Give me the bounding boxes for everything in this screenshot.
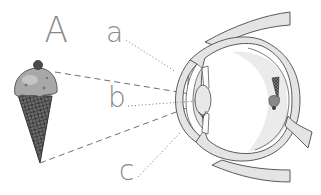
eye-cross-section (176, 12, 312, 182)
label-a: a (106, 19, 123, 47)
cherry-icon (34, 61, 43, 70)
pointer-a (126, 40, 176, 72)
lower-muscle (212, 160, 290, 182)
pointer-c (138, 133, 180, 177)
label-c: c (119, 157, 134, 185)
ice-cream-cone (15, 61, 57, 164)
label-b: b (108, 84, 126, 112)
lens (195, 85, 211, 115)
eye-diagram: A a b c (0, 0, 321, 195)
figure-label: A (45, 12, 68, 48)
scoop-highlight (22, 75, 38, 85)
cone (18, 95, 52, 163)
